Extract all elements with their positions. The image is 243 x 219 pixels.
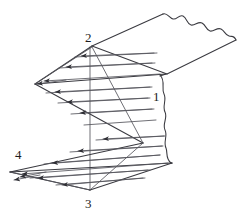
label-2: 2 [85, 31, 92, 44]
label-1: 1 [153, 90, 160, 103]
figure-root: 1 2 3 4 [0, 0, 243, 219]
upper-zigzag-panel [35, 46, 166, 143]
label-4: 4 [15, 148, 22, 161]
upper-flow-arrows [44, 53, 160, 113]
figure-drawing [0, 0, 243, 219]
label-3: 3 [85, 197, 92, 210]
lower-zigzag-panel [10, 136, 172, 190]
wavy-break-line [160, 75, 171, 163]
